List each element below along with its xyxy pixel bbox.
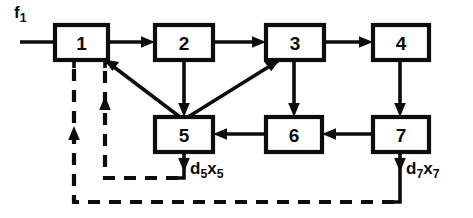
node-2[interactable]: 2 <box>155 25 213 60</box>
output-5-d: d <box>190 159 200 178</box>
arrowhead-6-to-5 <box>213 128 227 140</box>
arrowhead-recycle-5-to-1 <box>99 96 111 110</box>
node-1-label: 1 <box>76 33 87 54</box>
feed-stream-subscript: 1 <box>20 11 27 25</box>
node-5[interactable]: 5 <box>155 117 213 152</box>
output-stream-5-label: d5x5 <box>190 160 223 180</box>
output-stream-7-label: d7x7 <box>406 160 439 180</box>
output-5-x: x <box>207 159 216 178</box>
node-4-label: 4 <box>396 33 407 54</box>
link-5-to-1 <box>106 61 180 117</box>
process-flow-diagram: 1 2 3 4 5 6 7 f1 d5x5 d7x7 <box>0 0 473 218</box>
node-6-label: 6 <box>289 125 300 146</box>
output-7-d: d <box>406 159 416 178</box>
feed-stream-label: f1 <box>14 4 26 24</box>
link-5-to-3 <box>188 61 278 117</box>
arrowhead-1-to-2 <box>141 36 155 48</box>
output-7-x-subscript: 7 <box>433 167 440 181</box>
node-5-label: 5 <box>179 125 190 146</box>
node-7[interactable]: 7 <box>373 117 429 152</box>
node-3-label: 3 <box>290 33 301 54</box>
node-2-label: 2 <box>179 33 190 54</box>
output-5-x-subscript: 5 <box>217 167 224 181</box>
arrowhead-recycle-7-to-1 <box>68 126 80 140</box>
arrowhead-7-output <box>394 158 406 172</box>
node-6[interactable]: 6 <box>266 117 322 152</box>
node-3[interactable]: 3 <box>266 25 324 60</box>
arrowhead-2-to-3 <box>252 36 266 48</box>
output-7-x: x <box>423 159 432 178</box>
arrowhead-5-output <box>178 158 190 172</box>
node-4[interactable]: 4 <box>373 25 429 60</box>
arrowhead-7-to-6 <box>322 128 336 140</box>
diagram-canvas: 1 2 3 4 5 6 7 <box>0 0 473 218</box>
node-1[interactable]: 1 <box>55 25 108 60</box>
node-7-label: 7 <box>396 125 407 146</box>
arrowhead-3-to-4 <box>359 36 373 48</box>
